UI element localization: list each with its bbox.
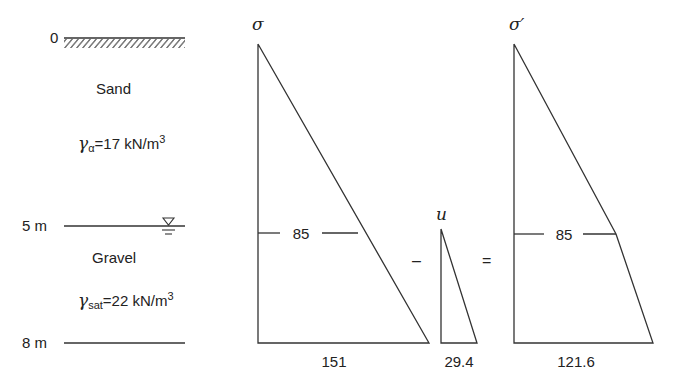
depth-label-water-table: 5 m — [22, 217, 47, 234]
effective-stress-mid-value: 85 — [556, 226, 573, 243]
depth-label-top: 0 — [50, 29, 58, 46]
pore-pressure-diagram: u 29.4 — [436, 204, 477, 370]
effective-stress-outline — [514, 44, 653, 343]
total-stress-diagram: σ 85 151 — [252, 14, 429, 370]
effective-stress-diagram: σ′ 85 121.6 — [509, 14, 653, 370]
u-symbol: u — [436, 204, 447, 224]
pore-pressure-bottom-value: 29.4 — [444, 353, 473, 370]
stress-diagram: 0 Sand γα=17 kN/m3 5 m Gravel γsat=22 kN… — [0, 0, 682, 389]
total-stress-outline — [258, 44, 429, 343]
soil-profile: 0 Sand γα=17 kN/m3 5 m Gravel γsat=22 kN… — [22, 29, 185, 351]
total-stress-bottom-value: 151 — [321, 353, 346, 370]
sand-unit-weight: γα=17 kN/m3 — [78, 133, 165, 154]
gravel-unit-weight: γsat=22 kN/m3 — [78, 290, 174, 311]
ground-hatch-icon — [64, 39, 185, 48]
depth-label-bottom: 8 m — [22, 334, 47, 351]
total-stress-mid-value: 85 — [293, 225, 310, 242]
layer-name-sand: Sand — [96, 80, 131, 97]
sigma-symbol: σ — [252, 14, 264, 34]
effective-stress-bottom-value: 121.6 — [557, 353, 595, 370]
pore-pressure-outline — [441, 229, 477, 343]
minus-sign: – — [412, 252, 421, 269]
sigma-prime-symbol: σ′ — [509, 14, 525, 34]
layer-name-gravel: Gravel — [92, 249, 136, 266]
equals-sign: = — [482, 252, 491, 269]
